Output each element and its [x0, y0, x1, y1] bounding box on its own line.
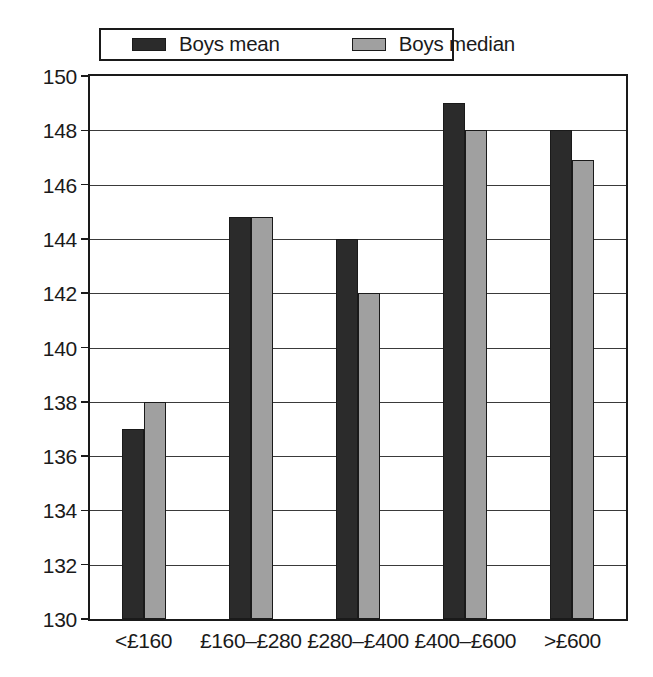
x-tick-label: £400–£600	[414, 630, 516, 651]
bar-chart-figure: Boys mean Boys median 130132134136138140…	[0, 0, 653, 677]
y-tick-label-130: 130	[43, 609, 77, 630]
x-tick-label: £160–£280	[200, 630, 302, 651]
y-tick-label-138: 138	[43, 391, 77, 412]
bar-boys-median[interactable]	[251, 217, 273, 619]
bar-boys-mean[interactable]	[122, 429, 144, 619]
legend-entry-boys-median[interactable]: Boys median	[352, 30, 515, 59]
y-tick-label-144: 144	[43, 228, 77, 249]
y-tick-136	[81, 455, 90, 457]
bar-boys-median[interactable]	[465, 130, 487, 619]
bar-group	[197, 76, 304, 619]
y-tick-label-150: 150	[43, 66, 77, 87]
bar-group	[412, 76, 519, 619]
y-tick-label-140: 140	[43, 337, 77, 358]
bar-boys-median[interactable]	[144, 402, 166, 619]
x-tick-label: <£160	[115, 630, 172, 651]
bar-boys-mean[interactable]	[550, 130, 572, 619]
y-tick-150	[81, 75, 90, 77]
chart-legend: Boys mean Boys median	[99, 28, 454, 61]
y-tick-label-148: 148	[43, 120, 77, 141]
bar-group	[304, 76, 411, 619]
bar-boys-median[interactable]	[572, 160, 594, 619]
y-tick-138	[81, 401, 90, 403]
plot-area: 130132134136138140142144146148150	[88, 74, 628, 621]
y-tick-148	[81, 130, 90, 132]
bar-boys-mean[interactable]	[229, 217, 251, 619]
bar-boys-median[interactable]	[358, 293, 380, 619]
legend-swatch-boys-mean	[132, 38, 166, 51]
legend-label-boys-median: Boys median	[399, 34, 515, 55]
y-tick-132	[81, 564, 90, 566]
legend-label-boys-mean: Boys mean	[179, 34, 280, 55]
y-tick-144	[81, 238, 90, 240]
y-tick-label-146: 146	[43, 174, 77, 195]
y-tick-label-132: 132	[43, 554, 77, 575]
y-tick-label-142: 142	[43, 283, 77, 304]
bar-boys-mean[interactable]	[443, 103, 465, 619]
bar-group	[519, 76, 626, 619]
x-tick-label: >£600	[544, 630, 601, 651]
bar-group	[90, 76, 197, 619]
y-tick-130	[81, 618, 90, 620]
legend-entry-boys-mean[interactable]: Boys mean	[132, 30, 280, 59]
y-tick-142	[81, 292, 90, 294]
y-tick-134	[81, 510, 90, 512]
bar-boys-mean[interactable]	[336, 239, 358, 619]
legend-swatch-boys-median	[352, 38, 386, 51]
y-tick-label-134: 134	[43, 500, 77, 521]
y-tick-140	[81, 347, 90, 349]
plot-inner: 130132134136138140142144146148150	[90, 76, 626, 619]
y-tick-label-136: 136	[43, 446, 77, 467]
x-tick-label: £280–£400	[307, 630, 409, 651]
y-tick-146	[81, 184, 90, 186]
